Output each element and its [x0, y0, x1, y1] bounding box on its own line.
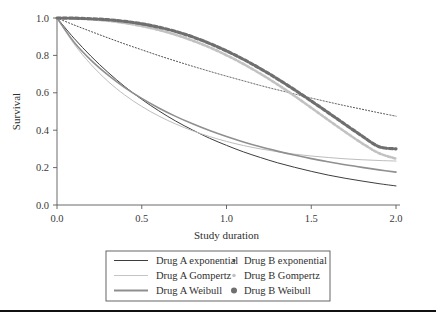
legend-entry-drug-b-gompertz[interactable]: Drug B Gompertz: [232, 270, 320, 281]
legend-entry-drug-a-exponential[interactable]: Drug A exponential: [114, 255, 238, 266]
series-drug-a-exponential: [57, 18, 396, 186]
y-tick-label-0: 0.0: [36, 200, 49, 211]
y-tick-label-5: 1.0: [36, 13, 49, 24]
legend-label: Drug B Weibull: [244, 285, 311, 296]
legend-marker-sample: [232, 274, 236, 278]
series-drug-b-exponential: [57, 18, 396, 116]
series-drug-b-weibull: [57, 18, 396, 149]
x-tick-label-2: 1.0: [220, 213, 233, 224]
chart-legend[interactable]: Drug A exponentialDrug A GompertzDrug A …: [106, 251, 330, 301]
legend-marker-sample: [231, 288, 237, 294]
x-tick-label-3: 1.5: [305, 213, 318, 224]
chart-series: [57, 18, 396, 186]
figure-container: 0.00.20.40.60.81.00.00.51.01.52.0 Study …: [0, 0, 436, 320]
legend-entry-drug-a-gompertz[interactable]: Drug A Gompertz: [114, 270, 232, 281]
y-tick-label-4: 0.8: [36, 50, 49, 61]
legend-label: Drug A exponential: [156, 255, 238, 266]
series-drug-a-gompertz: [57, 18, 396, 161]
legend-label: Drug B exponential: [244, 255, 327, 266]
y-tick-label-2: 0.4: [36, 125, 50, 136]
legend-entry-drug-b-exponential[interactable]: Drug B exponential: [233, 255, 327, 266]
series-drug-b-gompertz: [57, 18, 396, 159]
legend-entry-drug-b-weibull[interactable]: Drug B Weibull: [231, 285, 311, 296]
x-axis-title: Study duration: [194, 229, 260, 241]
legend-label: Drug B Gompertz: [244, 270, 320, 281]
series-drug-a-weibull: [57, 18, 396, 172]
legend-marker-sample: [233, 259, 236, 262]
legend-entry-drug-a-weibull[interactable]: Drug A Weibull: [114, 285, 222, 296]
survival-chart: 0.00.20.40.60.81.00.00.51.01.52.0 Study …: [0, 0, 436, 320]
tick-labels: 0.00.20.40.60.81.00.00.51.01.52.0: [36, 13, 403, 224]
x-tick-label-4: 2.0: [389, 213, 402, 224]
legend-label: Drug A Weibull: [156, 285, 222, 296]
axes: [53, 17, 400, 209]
y-axis-title: Survival: [10, 93, 22, 130]
x-tick-label-0: 0.0: [50, 213, 63, 224]
y-tick-label-3: 0.6: [36, 87, 49, 98]
x-tick-label-1: 0.5: [135, 213, 148, 224]
y-tick-label-1: 0.2: [36, 162, 49, 173]
legend-label: Drug A Gompertz: [156, 270, 232, 281]
